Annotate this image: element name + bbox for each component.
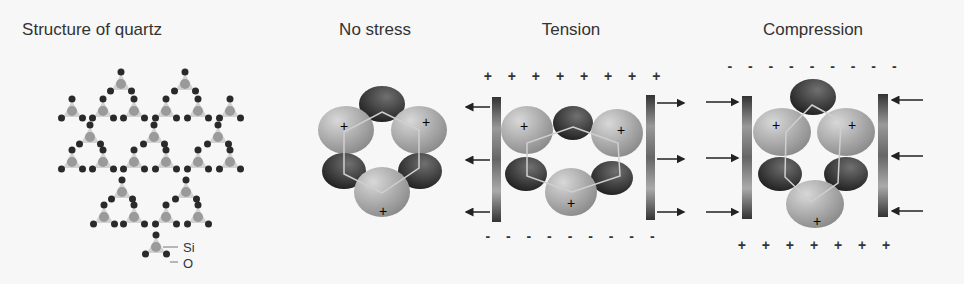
compression-molecule: +++	[706, 79, 923, 229]
svg-text:+: +	[567, 195, 575, 211]
svg-text:+: +	[340, 118, 348, 134]
svg-text:+: +	[379, 203, 387, 219]
si-label: Si	[183, 240, 195, 255]
quartz-lattice	[58, 69, 244, 263]
tension-top-charge: + + + + + + + +	[484, 68, 667, 84]
o-label: O	[183, 256, 193, 271]
svg-text:+: +	[422, 114, 430, 130]
compression-bottom-charge: + + + + + + +	[738, 237, 897, 253]
svg-text:+: +	[848, 117, 856, 133]
svg-text:+: +	[813, 213, 821, 229]
svg-text:+: +	[520, 118, 528, 134]
svg-text:+: +	[617, 122, 625, 138]
compression-title: Compression	[763, 20, 863, 40]
no-stress-molecule: +++	[318, 86, 447, 219]
no-stress-title: No stress	[339, 20, 411, 40]
tension-title: Tension	[542, 20, 601, 40]
tension-bottom-charge: - - - - - - - - -	[485, 228, 660, 244]
tension-molecule: +++	[466, 95, 684, 222]
quartz-title: Structure of quartz	[22, 20, 162, 40]
compression-top-charge: - - - - - - - - -	[727, 58, 902, 74]
svg-text:+: +	[772, 117, 780, 133]
